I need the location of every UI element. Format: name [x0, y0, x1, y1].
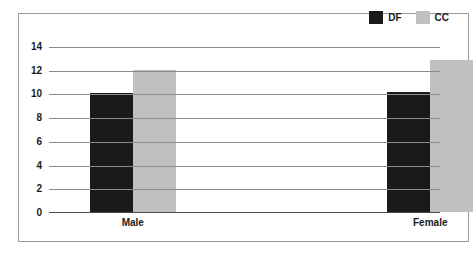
gridline	[49, 47, 440, 48]
x-axis-line	[49, 212, 440, 213]
y-axis-tick-label: 2	[36, 184, 42, 194]
bar-female-df[interactable]	[387, 92, 430, 212]
bar-group-container	[49, 47, 440, 213]
legend-label: DF	[388, 13, 401, 23]
y-axis-tick-label: 6	[36, 137, 42, 147]
gridline	[49, 71, 440, 72]
legend-item-df[interactable]: DF	[369, 11, 401, 24]
gridline	[49, 166, 440, 167]
y-axis-tick-label: 10	[31, 89, 42, 99]
caption-text: Gender.	[2, 0, 37, 1]
legend-swatch-icon	[416, 11, 430, 24]
gridline	[49, 142, 440, 143]
chart-legend: DFCC	[369, 11, 449, 24]
y-axis-tick-label: 0	[36, 208, 42, 218]
legend-label: CC	[435, 13, 449, 23]
y-axis-tick-label: 4	[36, 161, 42, 171]
x-axis-label-female: Female	[413, 218, 447, 228]
x-axis-labels: MaleFemale	[49, 218, 440, 234]
y-axis-tick-label: 8	[36, 113, 42, 123]
plot-area: 02468101214	[49, 47, 440, 213]
chart-screenshot: Gender. DFCC 02468101214 MaleFemale	[0, 0, 475, 257]
bar-male-df[interactable]	[90, 93, 133, 212]
y-axis-tick-label: 14	[31, 42, 42, 52]
gridline	[49, 118, 440, 119]
gridline	[49, 94, 440, 95]
y-axis-tick-label: 12	[31, 66, 42, 76]
legend-swatch-icon	[369, 11, 383, 24]
legend-item-cc[interactable]: CC	[416, 11, 449, 24]
x-axis-label-male: Male	[122, 218, 144, 228]
gridline	[49, 189, 440, 190]
